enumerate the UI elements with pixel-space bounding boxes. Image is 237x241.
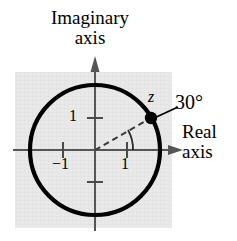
real-axis-label-line2: axis <box>182 142 217 162</box>
imaginary-axis-label-line2: axis <box>0 28 180 48</box>
point-z-label: z <box>148 89 154 106</box>
complex-plane-figure: Imaginary axis Real axis 30° z 1 −1 1 <box>0 0 237 241</box>
tick-label-positive-one-imaginary: 1 <box>69 108 77 125</box>
real-axis-arrowhead <box>168 145 183 155</box>
imaginary-axis-label-line1: Imaginary <box>0 8 180 28</box>
tick-label-positive-one-real: 1 <box>121 156 129 173</box>
imaginary-axis-arrowhead <box>91 56 100 72</box>
real-axis-label: Real axis <box>182 122 217 162</box>
imaginary-axis-label: Imaginary axis <box>0 8 180 48</box>
tick-label-negative-one-real: −1 <box>52 156 69 173</box>
real-axis-label-line1: Real <box>182 122 217 142</box>
point-z-marker <box>145 112 157 124</box>
angle-value-label: 30° <box>175 92 203 113</box>
